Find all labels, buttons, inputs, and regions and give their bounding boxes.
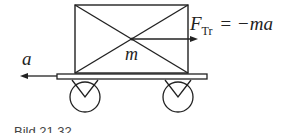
figure-caption: Bild 21.32 bbox=[14, 124, 72, 133]
force-rhs: = −ma bbox=[219, 13, 273, 34]
mass-label: m bbox=[125, 44, 138, 65]
center-of-mass-dot bbox=[131, 38, 134, 41]
acceleration-arrow bbox=[20, 73, 57, 79]
acceleration-label: a bbox=[22, 48, 32, 70]
right-wheel bbox=[163, 80, 193, 112]
force-subscript: Tr bbox=[202, 24, 213, 38]
left-wheel bbox=[70, 80, 100, 112]
force-label: FTr = −ma bbox=[190, 13, 273, 35]
force-symbol: F bbox=[190, 13, 202, 34]
cart-platform bbox=[57, 74, 207, 79]
